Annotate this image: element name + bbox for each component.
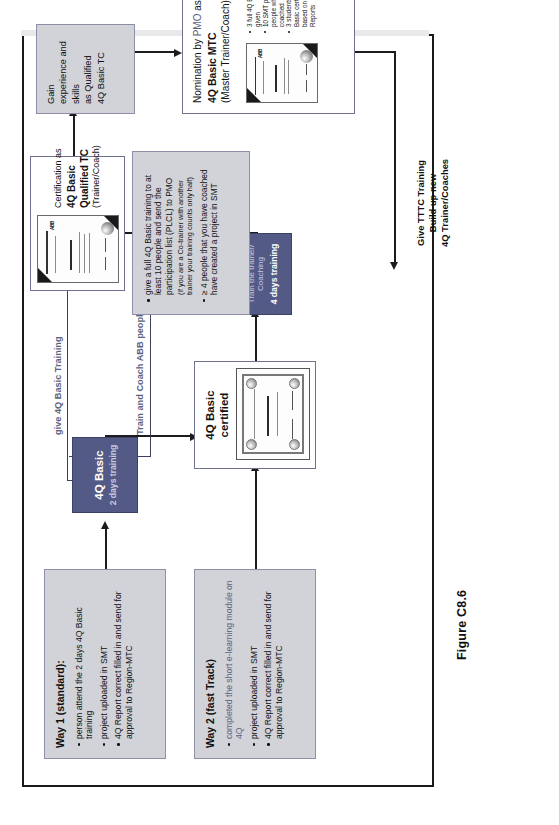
node-4q-basic: 4Q Basic 2 days training [72, 437, 138, 513]
gain-line2: experience and [57, 34, 69, 104]
gain-line1: Gain [45, 34, 57, 104]
flow-label-tttc-line2: Build up new [427, 159, 439, 247]
connector-certified-to-tttc [255, 315, 257, 361]
gain-line5: 4Q Basic TC [95, 34, 107, 104]
nomination-bullet-2: 10 SMT projects by people which you ave … [262, 0, 286, 27]
way1-bullets: person attend the 2 days 4Q Basic traini… [74, 580, 134, 748]
node-tttc-sub2: Coaching [256, 257, 266, 291]
node-4q-basic-title: 4Q Basic [92, 450, 106, 499]
requirements-bullet-2: ≥ 4 people that you have coached have cr… [199, 162, 220, 295]
figure-caption: Figure C8.6 [455, 590, 469, 660]
nomination-line1-a: Nomination by [192, 36, 203, 103]
certification-text-group: Certification as 4Q Basic Qualified TC (… [53, 145, 102, 208]
node-way1: Way 1 (standard): person attend the 2 da… [44, 569, 166, 759]
abb-logo-icon: ABB [50, 221, 56, 230]
way2-bullet-1: completed the short e-learning module on… [224, 580, 245, 739]
arrowhead-nomination-loop [390, 262, 398, 270]
nomination-bullet-3: 3 students got 4Q Basic certification ba… [285, 0, 316, 27]
connector-way2-to-certified [255, 469, 257, 569]
certification-line4: (Trainer/Coach) [91, 145, 103, 208]
requirements-bullet-1: give a full 4Q Basic training to at leas… [143, 162, 174, 295]
way2-title: Way 2 (fast Track) [204, 580, 217, 748]
certification-line1: Certification as [53, 145, 65, 208]
nomination-line1-c: as [192, 0, 203, 13]
requirements-bullets: give a full 4Q Basic training to at leas… [143, 162, 219, 304]
certification-line2: 4Q Basic [65, 145, 78, 208]
node-gain-experience: Gain experience and skills as Qualified … [36, 24, 135, 114]
flow-label-tttc-block: Give TTTC Training Build up new 4Q Train… [415, 159, 452, 247]
certificate-icon-qualified-tc: ABB [37, 215, 119, 283]
way2-bullet-3: 4Q Report correct filled in and send for… [263, 580, 284, 739]
nomination-pmo-token: PMO [192, 14, 203, 37]
flowchart-canvas: give 4Q Basic Training Train and Coach A… [22, 34, 434, 787]
connector-way1-to-basic [105, 527, 107, 569]
certificate-icon-nomination: ABB [246, 43, 318, 103]
gain-line3: skills [70, 34, 82, 104]
nomination-line1: Nomination by PMO as [192, 0, 204, 103]
requirements-note: (if you are a Co-trainer with another tr… [177, 162, 195, 295]
node-tc-requirements: give a full 4Q Basic training to at leas… [132, 151, 250, 315]
nomination-detail-row: ABB 3 full 4Q Basic courses given 10 SMT… [246, 0, 318, 103]
node-tttc-sub3: 4 days training [269, 244, 279, 305]
way1-bullet-1: person attend the 2 days 4Q Basic traini… [74, 580, 95, 739]
abb-logo-icon-2: ABB [258, 49, 264, 58]
connector-nomination-loop-h [394, 51, 396, 263]
node-4q-basic-certified: 4Q Basic certified [194, 361, 316, 469]
flow-label-give-basic: give 4Q Basic Training [53, 336, 63, 435]
arrowhead-gain-to-nomination [174, 49, 182, 57]
gain-line4: as Qualified [82, 34, 94, 104]
way1-title: Way 1 (standard): [54, 580, 67, 748]
nomination-bullet-1: 3 full 4Q Basic courses given [246, 0, 262, 27]
certification-line3: Qualified TC [78, 145, 91, 208]
nomination-bullets: 3 full 4Q Basic courses given 10 SMT pro… [246, 0, 317, 35]
way1-bullet-3: 4Q Report correct filled in and send for… [113, 580, 134, 739]
way2-bullet-2: project uploaded in SMT [249, 580, 259, 739]
node-way2: Way 2 (fast Track) completed the short e… [194, 569, 316, 759]
way2-bullets: completed the short e-learning module on… [224, 580, 284, 748]
node-nomination-pmo: Nomination by PMO as 4Q Basic MTC (Maste… [182, 0, 355, 114]
node-4q-basic-subtitle: 2 days training [108, 445, 118, 506]
connector-nomination-loop-v [355, 51, 395, 53]
arrowhead-way1-to-basic [101, 521, 109, 529]
certificate-icon-certified [236, 368, 310, 460]
way1-bullet-2: project uploaded in SMT [99, 580, 109, 739]
nomination-line2: 4Q Basic MTC [206, 0, 219, 103]
node-certified-title: 4Q Basic certified [203, 370, 231, 460]
nomination-line3: (Master Trainer/Coach) [220, 0, 232, 103]
connector-gain-to-nomination [135, 51, 177, 53]
node-certification-qualified-tc: ABB Certification as 4Q Basic Qualified … [30, 156, 125, 291]
flow-label-tttc-line1: Give TTTC Training [415, 159, 427, 247]
flow-label-tttc-line3: 4Q Trainer/Coaches [439, 159, 451, 247]
